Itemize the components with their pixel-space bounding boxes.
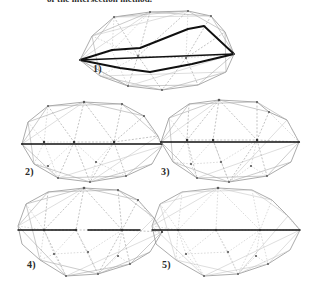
mesh-diagram-3 [155, 96, 305, 186]
mesh-edges-1 [80, 11, 234, 90]
mesh-edges-5 [152, 188, 300, 276]
mesh-dashed-edges-2 [28, 102, 162, 182]
mesh-diagram-2 [18, 96, 166, 186]
panel-label-4: 4) [27, 259, 36, 270]
mesh-vertices-4 [43, 187, 163, 277]
figure-caption-text: of the intersection method. [47, 0, 152, 4]
diagram-panel-4 [14, 186, 166, 282]
panel-label-3: 3) [161, 166, 170, 177]
mesh-dashed-edges-1 [80, 11, 234, 90]
panel-label-1: 1) [93, 63, 102, 74]
diagram-panel-5 [150, 186, 308, 282]
diagram-panel-3 [155, 96, 305, 186]
mesh-diagram-4 [14, 186, 166, 282]
mesh-diagram-5 [150, 186, 308, 282]
panel-label-2: 2) [25, 166, 34, 177]
diagram-panel-2 [18, 96, 166, 186]
panel-label-5: 5) [162, 259, 171, 270]
mesh-hull-3 [161, 100, 299, 182]
mesh-edges-4 [18, 188, 162, 276]
mesh-hull-1 [80, 11, 234, 90]
mesh-diagram-1 [78, 6, 238, 92]
diagram-panel-1 [78, 6, 238, 92]
